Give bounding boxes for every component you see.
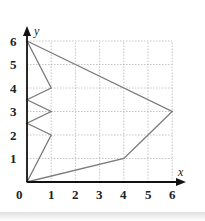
grid-lines	[27, 41, 172, 182]
x-tick-4: 4	[120, 187, 127, 202]
y-tick-6: 6	[10, 34, 17, 49]
origin-label: 0	[16, 187, 23, 202]
y-tick-2: 2	[10, 128, 17, 143]
coordinate-plane: x y 0 1 2 3 4 5 6 1 2 3 4 5 6	[0, 0, 205, 221]
x-axis-arrow-icon	[176, 178, 186, 186]
x-axis-label: x	[177, 165, 184, 179]
x-tick-3: 3	[96, 187, 103, 202]
y-tick-5: 5	[10, 57, 17, 72]
y-axis-label: y	[33, 24, 40, 38]
y-tick-1: 1	[10, 151, 17, 166]
x-tick-1: 1	[48, 187, 55, 202]
y-axis-arrow-icon	[23, 26, 31, 36]
x-tick-5: 5	[145, 187, 152, 202]
x-tick-2: 2	[72, 187, 79, 202]
y-tick-4: 4	[10, 81, 17, 96]
y-tick-3: 3	[10, 104, 17, 119]
x-tick-6: 6	[169, 187, 176, 202]
